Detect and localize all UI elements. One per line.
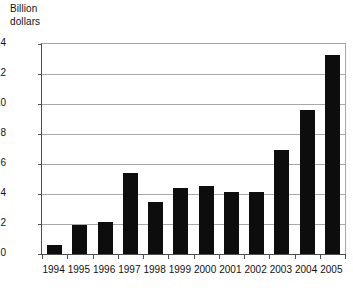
x-tick-mark [295,254,296,259]
y-tick-mark [38,44,42,45]
gridline [42,104,345,105]
y-tick-label: 10 [0,98,6,108]
x-tick-mark [168,254,169,259]
x-tick-label: 2005 [311,264,351,275]
y-tick-mark [38,224,42,225]
bar [224,192,239,254]
y-tick-label: 8 [0,128,6,138]
y-axis-title-line-1: Billion [10,3,90,16]
bar [72,225,87,254]
x-tick-mark [269,254,270,259]
x-tick-mark [244,254,245,259]
bar [47,245,62,254]
x-tick-mark [143,254,144,259]
y-axis-title-line-2: dollars [10,16,90,29]
bar [148,202,163,255]
plot-area [41,43,346,255]
y-tick-mark [38,74,42,75]
y-tick-mark [38,164,42,165]
bar [249,192,264,254]
x-tick-mark [194,254,195,259]
x-tick-mark [345,254,346,259]
bar [325,55,340,255]
gridline [42,74,345,75]
y-tick-label: 0 [0,248,6,258]
y-tick-label: 4 [0,188,6,198]
y-tick-label: 6 [0,158,6,168]
y-tick-label: 2 [0,218,6,228]
y-tick-mark [38,194,42,195]
y-tick-mark [38,104,42,105]
y-tick-label: 14 [0,38,6,48]
x-tick-mark [320,254,321,259]
bar [199,186,214,254]
bar [173,188,188,254]
bar-chart-figure: Billion dollars 02468101214 199419951996… [0,0,353,288]
bar [300,110,315,254]
x-tick-mark [219,254,220,259]
x-tick-mark [67,254,68,259]
x-tick-mark [42,254,43,259]
y-tick-label: 12 [0,68,6,78]
x-tick-mark [118,254,119,259]
y-tick-mark [38,134,42,135]
bar [123,173,138,254]
bar [98,222,113,254]
y-axis-title: Billion dollars [10,3,90,28]
bar [274,150,289,254]
x-tick-mark [93,254,94,259]
